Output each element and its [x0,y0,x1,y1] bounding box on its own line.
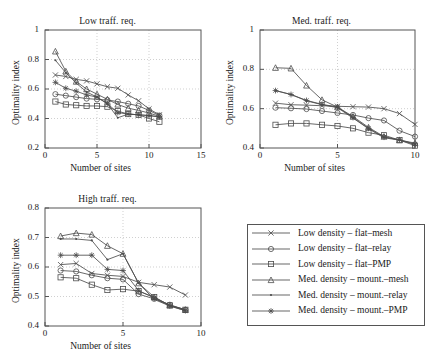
x-tick-label: 10 [401,150,429,160]
legend-label: Low density – flat–PMP [294,259,391,269]
legend-item[interactable]: Low density – flat–mesh [248,225,424,241]
x-tick-label: 0 [246,150,274,160]
square-icon [248,256,294,272]
asterisk-icon [248,303,294,319]
x-icon [248,225,294,241]
series-1 [273,105,418,139]
y-tick-label: 1 [0,24,39,34]
x-tick-label: 15 [187,150,215,160]
series-4 [274,89,416,145]
y-tick-label: 0.4 [0,113,39,123]
y-tick-label: 0.6 [0,261,39,271]
chart-panel-high-traffic: High traff. req.Optimality indexNumber o… [0,186,215,360]
series-3 [53,48,163,119]
x-tick-label: 10 [135,150,163,160]
legend-item[interactable]: Med. density – mount.–mesh [248,272,424,288]
x-tick-label: 5 [324,150,352,160]
series-2 [273,121,418,148]
chart-panel-med-traffic: Med. traff. req.Optimality indexNumber o… [214,8,429,180]
legend-label: Med. density – mount.–mesh [294,274,409,284]
x-tick-label: 0 [31,328,59,338]
legend-item[interactable]: Med. density – mount.–PMP [248,303,424,319]
x-tick-label: 5 [109,328,137,338]
legend-label: Low density – flat–relay [294,243,391,253]
triangle-icon [248,272,294,288]
y-tick-label: 1 [214,24,254,34]
y-tick-label: 0.8 [214,63,254,73]
dot-icon [248,287,294,303]
y-tick-label: 0.6 [214,103,254,113]
y-tick-label: 0.6 [0,83,39,93]
legend: Low density – flat–meshLow density – fla… [247,224,425,326]
x-tick-label: 0 [31,150,59,160]
y-tick-label: 0.8 [0,54,39,64]
legend-label: Low density – flat–mesh [294,228,392,238]
y-tick-label: 0.7 [0,232,39,242]
chart-panel-low-traffic: Low traff. req.Optimality indexNumber of… [0,8,215,180]
legend-item[interactable]: Med. density – mount.–relay [248,287,424,303]
circle-icon [248,241,294,257]
legend-item[interactable]: Low density – flat–PMP [248,256,424,272]
x-tick-label: 10 [187,328,215,338]
y-tick-label: 0.8 [0,202,39,212]
x-tick-label: 5 [83,150,111,160]
legend-label: Med. density – mount.–PMP [294,305,408,315]
legend-label: Med. density – mount.–relay [294,290,408,300]
series-0 [53,72,162,117]
y-tick-label: 0.5 [0,291,39,301]
series-5 [273,88,418,147]
legend-item[interactable]: Low density – flat–relay [248,241,424,257]
